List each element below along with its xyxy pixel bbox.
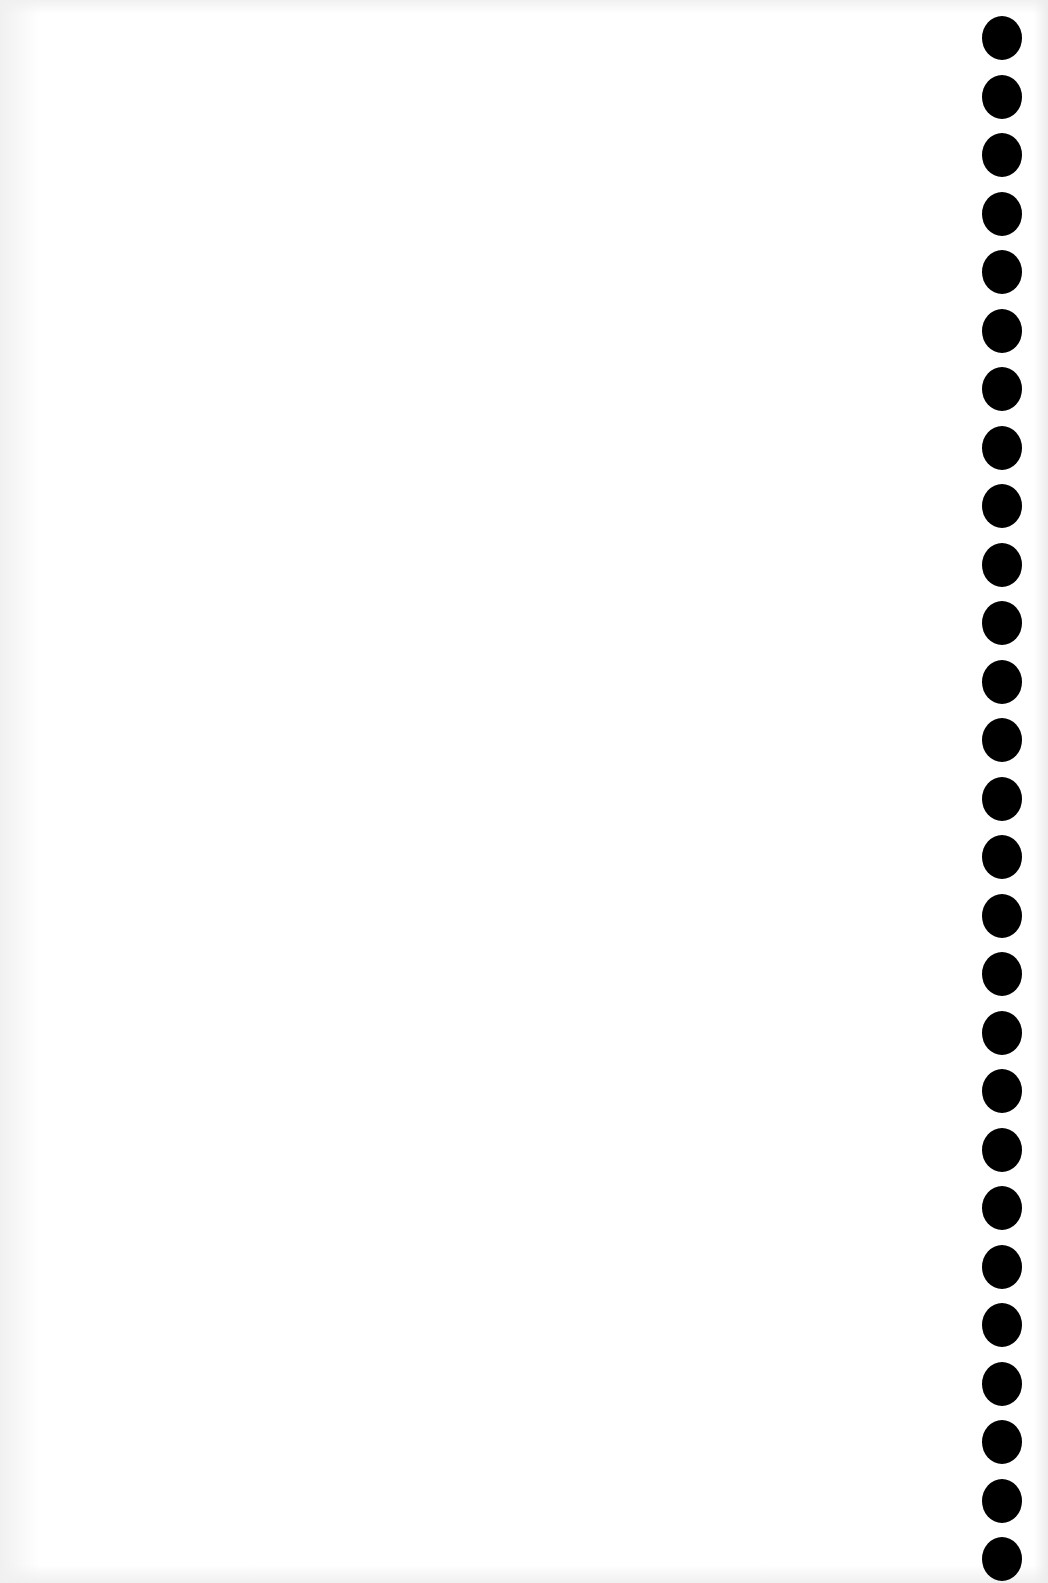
binding-hole-icon bbox=[982, 367, 1022, 411]
binding-hole-icon bbox=[982, 426, 1022, 470]
binding-hole-icon bbox=[982, 660, 1022, 704]
binding-hole-icon bbox=[982, 835, 1022, 879]
binding-hole-icon bbox=[982, 250, 1022, 294]
binding-hole-icon bbox=[982, 1128, 1022, 1172]
binding-hole-icon bbox=[982, 1537, 1022, 1581]
binding-hole-icon bbox=[982, 543, 1022, 587]
binding-hole-icon bbox=[982, 1362, 1022, 1406]
binding-hole-icon bbox=[982, 718, 1022, 762]
binding-hole-icon bbox=[982, 1303, 1022, 1347]
binding-hole-icon bbox=[982, 192, 1022, 236]
binding-hole-icon bbox=[982, 309, 1022, 353]
binding-hole-icon bbox=[982, 1420, 1022, 1464]
binding-hole-icon bbox=[982, 777, 1022, 821]
binding-hole-icon bbox=[982, 1479, 1022, 1523]
binding-hole-icon bbox=[982, 16, 1022, 60]
binding-hole-icon bbox=[982, 133, 1022, 177]
binding-hole-icon bbox=[982, 75, 1022, 119]
binding-hole-icon bbox=[982, 601, 1022, 645]
binding-hole-icon bbox=[982, 1245, 1022, 1289]
binding-hole-icon bbox=[982, 1069, 1022, 1113]
blank-page bbox=[0, 0, 1048, 1583]
binding-hole-icon bbox=[982, 484, 1022, 528]
binding-hole-icon bbox=[982, 1186, 1022, 1230]
binding-hole-icon bbox=[982, 1011, 1022, 1055]
binding-hole-icon bbox=[982, 952, 1022, 996]
binding-hole-icon bbox=[982, 894, 1022, 938]
binding-holes-column bbox=[0, 0, 1048, 1583]
